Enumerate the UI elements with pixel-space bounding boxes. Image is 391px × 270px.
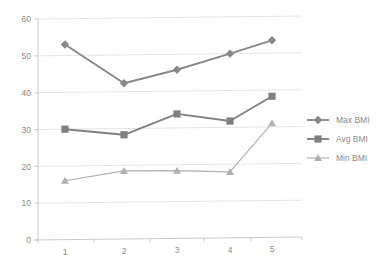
- y-axis-tick-label: 60: [22, 14, 32, 24]
- legend-item-avg-bmi[interactable]: Avg BMI: [307, 134, 368, 144]
- gridline: [38, 200, 302, 203]
- series-max-bmi: [61, 36, 276, 87]
- x-axis-tick-label: 4: [228, 245, 233, 255]
- data-point-marker: [314, 135, 321, 142]
- data-point-marker: [61, 126, 68, 133]
- x-axis: [34, 237, 302, 244]
- x-axis-tick-labels: 12345: [63, 244, 275, 256]
- series-line: [65, 40, 272, 83]
- y-axis-tick-label: 30: [22, 125, 32, 135]
- gridline: [38, 127, 302, 130]
- x-axis-tick-label: 1: [63, 247, 68, 257]
- chart-legend: Max BMIAvg BMIMin BMI: [307, 115, 370, 163]
- x-axis-line: [34, 237, 302, 240]
- y-axis: [35, 19, 39, 240]
- legend-label: Avg BMI: [336, 134, 368, 144]
- x-axis-tick-label: 3: [175, 245, 180, 255]
- x-axis-tick-label: 5: [270, 244, 275, 254]
- legend-label: Max BMI: [336, 115, 370, 125]
- data-series: [61, 36, 276, 184]
- y-axis-tick-label: 10: [22, 198, 32, 208]
- legend-item-min-bmi[interactable]: Min BMI: [307, 153, 367, 163]
- x-axis-tick-label: 2: [122, 246, 127, 256]
- gridline: [38, 90, 302, 93]
- y-axis-tick-label: 40: [22, 88, 32, 98]
- y-axis-tick-label: 0: [26, 235, 31, 245]
- y-axis-tick-label: 20: [22, 162, 32, 172]
- data-point-marker: [226, 117, 233, 124]
- y-axis-tick-labels: 0102030405060: [22, 14, 32, 245]
- legend-label: Min BMI: [336, 153, 367, 163]
- gridline: [38, 16, 302, 19]
- legend-item-max-bmi[interactable]: Max BMI: [307, 115, 370, 125]
- data-point-marker: [268, 36, 276, 44]
- gridline: [38, 163, 302, 166]
- data-point-marker: [226, 49, 234, 57]
- data-point-marker: [314, 116, 322, 124]
- data-point-marker: [173, 66, 181, 74]
- data-point-marker: [268, 93, 275, 100]
- series-avg-bmi: [61, 93, 275, 139]
- data-point-marker: [268, 119, 276, 126]
- data-point-marker: [120, 131, 127, 138]
- data-point-marker: [173, 110, 180, 117]
- line-chart: 0102030405060 12345 Max BMIAvg BMIMin BM…: [0, 0, 391, 270]
- y-axis-tick-label: 50: [22, 51, 32, 61]
- chart-container: 0102030405060 12345 Max BMIAvg BMIMin BM…: [0, 0, 391, 270]
